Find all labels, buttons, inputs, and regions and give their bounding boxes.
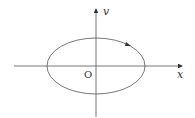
- v-axis-label: v: [103, 5, 110, 18]
- x-axis-label: x: [177, 68, 184, 81]
- direction-arrow-icon: [125, 42, 131, 46]
- origin-label: O: [84, 69, 92, 80]
- phase-diagram: v x O: [0, 0, 195, 118]
